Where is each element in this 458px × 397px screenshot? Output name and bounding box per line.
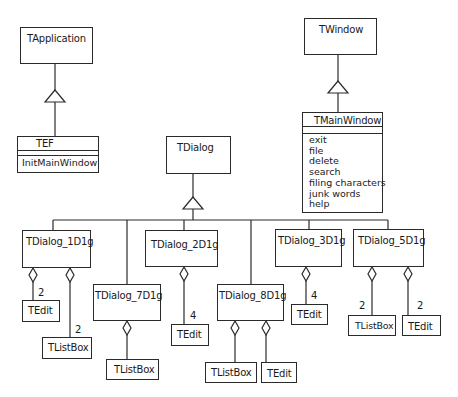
class-name: TDialog_1D1g <box>23 231 90 247</box>
class-tedit-8d1g[interactable]: TEdit <box>261 362 297 383</box>
class-tdialog-1d1g[interactable]: TDialog_1D1g <box>22 230 91 268</box>
class-tdialog-3d1g[interactable]: TDialog_3D1g <box>275 229 342 267</box>
class-tdialog-5d1g[interactable]: TDialog_5D1g <box>353 229 424 267</box>
multiplicity-label: 2 <box>38 287 44 298</box>
class-name: TEdit <box>262 363 296 379</box>
class-twindow[interactable]: TWindow <box>304 18 377 55</box>
operation-help: help <box>309 199 382 210</box>
class-tlistbox-5d1g[interactable]: TListBox <box>348 315 396 336</box>
operations-list: exit file delete search filing character… <box>303 133 382 210</box>
class-name: TWindow <box>305 19 376 35</box>
class-name: TListBox <box>43 338 91 353</box>
operations-list: InitMainWindow <box>18 155 98 168</box>
class-tdialog-8d1g[interactable]: TDialog_8D1g <box>217 284 284 321</box>
class-name: TListBox <box>206 363 256 378</box>
class-tdialog-2d1g[interactable]: TDialog_2D1g <box>145 230 218 267</box>
class-name: TEF <box>18 137 98 150</box>
operation: InitMainWindow <box>22 157 98 168</box>
class-tapplication[interactable]: TApplication <box>20 27 93 64</box>
multiplicity-label: 2 <box>417 300 423 311</box>
multiplicity-label: 4 <box>190 310 196 321</box>
class-name: TEdit <box>403 316 440 332</box>
class-name: TListBox <box>349 316 395 331</box>
multiplicity-label: 2 <box>359 300 365 311</box>
class-name: TEdit <box>23 301 59 316</box>
class-name: TListBox <box>107 360 158 375</box>
class-name: TEdit <box>172 325 208 340</box>
class-name: TApplication <box>21 28 92 44</box>
class-tedit-5d1g[interactable]: TEdit <box>402 315 441 336</box>
class-tedit-3d1g[interactable]: TEdit <box>291 304 328 325</box>
class-tedit-1d1g[interactable]: TEdit <box>22 300 60 322</box>
class-tlistbox-8d1g[interactable]: TListBox <box>205 362 257 383</box>
class-name: TDialog_8D1g <box>218 285 283 301</box>
operation-filing-characters: filing characters <box>309 178 382 189</box>
class-tedit-2d1g[interactable]: TEdit <box>171 324 209 346</box>
multiplicity-label: 2 <box>75 324 81 335</box>
class-name: TDialog_5D1g <box>354 230 423 246</box>
class-name: TDialog_7D1g <box>94 285 160 301</box>
class-tdialog-7d1g[interactable]: TDialog_7D1g <box>93 284 161 321</box>
class-name: TDialog_2D1g <box>146 231 217 250</box>
class-tlistbox-1d1g[interactable]: TListBox <box>42 337 92 359</box>
class-name: TDialog <box>167 137 230 153</box>
class-name: TMainWindow <box>303 113 382 126</box>
class-tmainwindow[interactable]: TMainWindow exit file delete search fili… <box>302 112 383 213</box>
class-name: TDialog_3D1g <box>276 230 341 246</box>
class-tlistbox-7d1g[interactable]: TListBox <box>106 359 159 380</box>
class-name: TEdit <box>292 305 327 320</box>
class-tdialog[interactable]: TDialog <box>166 136 231 174</box>
class-tef[interactable]: TEF InitMainWindow <box>17 136 99 173</box>
multiplicity-label: 4 <box>311 290 317 301</box>
